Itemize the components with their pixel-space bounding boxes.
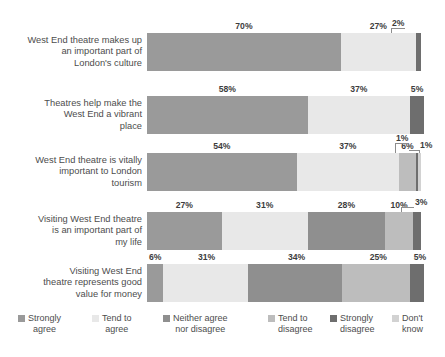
legend-label-line1: Strongly (28, 313, 61, 323)
bar-segment (342, 264, 411, 302)
row-label-line: London's culture (4, 58, 142, 69)
segment-value-label: 37% (339, 141, 356, 151)
legend-item[interactable]: Stronglyagree (18, 313, 61, 335)
bar-segment (147, 153, 297, 191)
bar-segment (308, 212, 386, 250)
bar-segment (418, 153, 421, 191)
row-label-line: Visiting West End theatre (4, 214, 142, 225)
legend-item[interactable]: Don'tknow (392, 313, 423, 335)
bar-segment (297, 153, 399, 191)
legend-swatch-icon (18, 315, 25, 322)
segment-value-label: 37% (350, 84, 367, 94)
callout-leader-line (419, 150, 420, 153)
bar-segment (163, 264, 248, 302)
segment-value-label: 70% (235, 21, 252, 31)
legend-label-line2: agree (18, 324, 61, 335)
legend-label-line1: Tend to (102, 313, 132, 323)
segment-value-label: 10% (390, 200, 407, 210)
stacked-bar-chart: West End theatre makes upan important pa… (0, 0, 445, 357)
segment-callout-label: 3% (415, 197, 427, 207)
row-label-line: West End a vibrant (4, 109, 142, 120)
legend-label-line1: Don't (402, 313, 423, 323)
legend-label-line1: Tend to (278, 313, 308, 323)
stacked-bar (147, 33, 424, 71)
segment-value-label: 5% (414, 252, 426, 262)
legend-swatch-icon (268, 315, 275, 322)
row-label-line: my life (4, 237, 142, 248)
segment-value-label: 27% (370, 21, 387, 31)
row-label-line: tourism (4, 178, 142, 189)
row-label: Theatres help make theWest End a vibrant… (4, 98, 142, 132)
legend-swatch-icon (92, 315, 99, 322)
callout-leader-line (409, 150, 419, 151)
chart-legend: StronglyagreeTend toagreeNeither agreeno… (0, 313, 445, 343)
row-label: Visiting West Endtheatre represents good… (4, 266, 142, 300)
row-label-line: West End theatre makes up (4, 35, 142, 46)
legend-label-line2: know (392, 324, 423, 335)
row-label: West End theatre is vitallyimportant to … (4, 155, 142, 189)
bar-segment (147, 212, 222, 250)
segment-value-label: 54% (213, 141, 230, 151)
legend-item[interactable]: Neither agreenor disagree (163, 313, 228, 335)
bar-segment (410, 264, 424, 302)
segment-value-label: 6% (149, 252, 161, 262)
legend-item[interactable]: Tend toagree (92, 313, 132, 335)
row-label-line: Theatres help make the (4, 98, 142, 109)
segment-callout-label: 1% (420, 140, 432, 150)
row-label: West End theatre makes upan important pa… (4, 35, 142, 69)
bar-segment (147, 264, 163, 302)
bar-segment (222, 212, 308, 250)
legend-item[interactable]: Tend todisagree (268, 313, 313, 335)
bar-segment (410, 96, 424, 134)
row-label-line: value for money (4, 289, 142, 300)
bar-segment (147, 33, 341, 71)
legend-label-line2: nor disagree (163, 324, 228, 335)
row-label-line: theatre represents good (4, 277, 142, 288)
bar-segment (308, 96, 410, 134)
callout-leader-line (395, 143, 396, 153)
legend-item[interactable]: Stronglydisagree (330, 313, 375, 335)
stacked-bar (147, 96, 424, 134)
stacked-bar (147, 212, 424, 250)
stacked-bar (147, 264, 424, 302)
row-label-line: an important part of (4, 46, 142, 57)
row-label-line: West End theatre is vitally (4, 155, 142, 166)
stacked-bar (147, 153, 424, 191)
bar-segment (385, 212, 413, 250)
segment-value-label: 58% (219, 84, 236, 94)
row-label-line: place (4, 121, 142, 132)
segment-value-label: 31% (198, 252, 215, 262)
bar-segment (399, 153, 416, 191)
row-label: Visiting West End theatreis an important… (4, 214, 142, 248)
legend-swatch-icon (163, 315, 170, 322)
row-label-line: Visiting West End (4, 266, 142, 277)
bar-segment (341, 33, 416, 71)
bar-segment (413, 212, 421, 250)
row-label-line: important to London (4, 166, 142, 177)
segment-callout-label: 2% (392, 18, 404, 28)
segment-callout-label: 1% (396, 133, 408, 143)
legend-swatch-icon (330, 315, 337, 322)
legend-label-line1: Neither agree (173, 313, 228, 323)
segment-value-label: 27% (176, 200, 193, 210)
segment-value-label: 5% (411, 84, 423, 94)
legend-swatch-icon (392, 315, 399, 322)
bar-segment (416, 33, 422, 71)
legend-label-line2: agree (92, 324, 132, 335)
row-label-line: is an important part of (4, 225, 142, 236)
legend-label-line2: disagree (330, 324, 375, 335)
legend-label-line2: disagree (268, 324, 313, 335)
legend-label-line1: Strongly (340, 313, 373, 323)
callout-leader-line (401, 207, 414, 208)
segment-value-label: 31% (256, 200, 273, 210)
callout-leader-line (395, 143, 408, 144)
bar-segment (147, 96, 308, 134)
callout-leader-line (391, 28, 405, 29)
segment-value-label: 25% (370, 252, 387, 262)
segment-value-label: 34% (288, 252, 305, 262)
segment-value-label: 28% (338, 200, 355, 210)
bar-segment (248, 264, 341, 302)
